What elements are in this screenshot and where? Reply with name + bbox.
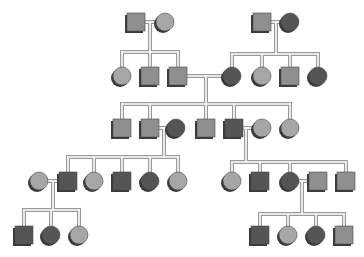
male-square-icon [307, 172, 327, 192]
female-circle-icon [279, 172, 299, 192]
male-square-icon [13, 226, 33, 246]
female-circle-icon [221, 67, 241, 87]
female-circle-icon [165, 119, 185, 139]
male-square-icon [111, 172, 131, 192]
female-circle-icon [68, 226, 88, 246]
male-square-icon [279, 67, 299, 87]
female-circle-icon [139, 172, 159, 192]
male-square-icon [335, 172, 355, 192]
male-square-icon [251, 13, 271, 33]
female-circle-icon [277, 226, 297, 246]
male-square-icon [249, 172, 269, 192]
pedigree-chart [0, 0, 364, 257]
male-square-icon [57, 172, 77, 192]
male-square-icon [223, 119, 243, 139]
male-square-icon [167, 67, 187, 87]
female-circle-icon [154, 13, 174, 33]
male-square-icon [249, 226, 269, 246]
male-square-icon [139, 119, 159, 139]
female-circle-icon [305, 226, 325, 246]
female-circle-icon [28, 172, 48, 192]
female-circle-icon [167, 172, 187, 192]
male-square-icon [195, 119, 215, 139]
male-square-icon [111, 119, 131, 139]
female-circle-icon [279, 119, 299, 139]
female-circle-icon [111, 67, 131, 87]
female-circle-icon [251, 119, 271, 139]
female-circle-icon [83, 172, 103, 192]
male-square-icon [139, 67, 159, 87]
female-circle-icon [40, 226, 60, 246]
female-circle-icon [307, 67, 327, 87]
female-circle-icon [221, 172, 241, 192]
pedigree-canvas [0, 0, 364, 257]
female-circle-icon [279, 13, 299, 33]
female-circle-icon [251, 67, 271, 87]
male-square-icon [333, 226, 353, 246]
male-square-icon [125, 13, 145, 33]
